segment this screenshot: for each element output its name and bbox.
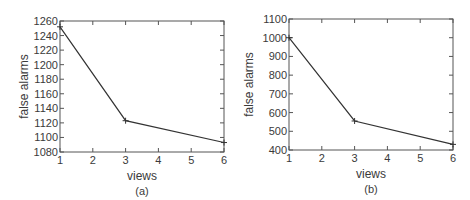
- y-tick-label: 1180: [34, 73, 58, 85]
- chart-b: 12345640050060070080090010001100viewsfal…: [235, 0, 470, 200]
- chart-a: 1234561080110011201140116011801200122012…: [0, 0, 235, 200]
- data-marker: [221, 140, 227, 146]
- data-line: [289, 38, 453, 145]
- plot-frame: [60, 21, 224, 152]
- x-tick-label: 2: [319, 152, 325, 164]
- plot-frame: [289, 19, 453, 150]
- panel-label: (a): [135, 185, 148, 197]
- y-tick-label: 400: [269, 144, 287, 156]
- y-tick-label: 1100: [34, 131, 58, 143]
- data-marker: [450, 141, 456, 147]
- chart-a-svg: 1234561080110011201140116011801200122012…: [0, 0, 235, 200]
- data-line: [60, 27, 224, 143]
- x-tick-label: 4: [155, 154, 161, 166]
- x-axis-label: views: [356, 167, 386, 181]
- x-axis-label: views: [127, 169, 157, 183]
- y-tick-label: 500: [269, 125, 287, 137]
- y-tick-label: 800: [269, 69, 287, 81]
- y-tick-label: 1240: [34, 30, 58, 42]
- panel-label: (b): [364, 183, 377, 195]
- x-tick-label: 3: [123, 154, 129, 166]
- y-axis-label: false alarms: [17, 54, 31, 119]
- x-tick-label: 2: [90, 154, 96, 166]
- y-tick-label: 1120: [34, 117, 58, 129]
- y-tick-label: 1140: [34, 102, 58, 114]
- y-tick-label: 1000: [263, 32, 287, 44]
- y-axis-label: false alarms: [242, 52, 256, 117]
- y-tick-label: 1080: [34, 146, 58, 158]
- x-tick-label: 6: [221, 154, 227, 166]
- x-tick-label: 3: [352, 152, 358, 164]
- y-tick-label: 1200: [34, 59, 58, 71]
- y-tick-label: 1220: [34, 44, 58, 56]
- y-tick-label: 700: [269, 88, 287, 100]
- y-tick-label: 1160: [34, 88, 58, 100]
- x-tick-label: 4: [384, 152, 390, 164]
- y-tick-label: 1100: [263, 13, 287, 25]
- x-tick-label: 5: [417, 152, 423, 164]
- chart-b-svg: 12345640050060070080090010001100viewsfal…: [235, 0, 470, 200]
- y-tick-label: 600: [269, 107, 287, 119]
- y-tick-label: 1260: [34, 15, 58, 27]
- x-tick-label: 6: [450, 152, 456, 164]
- y-tick-label: 900: [269, 50, 287, 62]
- x-tick-label: 5: [188, 154, 194, 166]
